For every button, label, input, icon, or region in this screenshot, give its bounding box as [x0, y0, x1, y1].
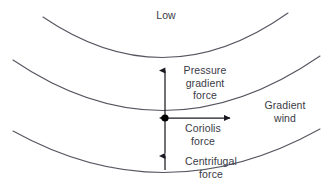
gradient-wind-force-balance-diagram: Low Pressure gradient force Coriolis for…: [0, 0, 332, 193]
air-parcel-point: [161, 114, 168, 121]
coriolis-force-label: Coriolis force: [170, 122, 236, 147]
pressure-gradient-force-line-3: force: [168, 89, 242, 102]
pressure-gradient-force-line-1: Pressure: [168, 64, 242, 77]
isobar-bottom-curve: [13, 129, 320, 173]
coriolis-force-line-2: force: [170, 135, 236, 148]
coriolis-force-line-1: Coriolis: [170, 122, 236, 135]
low-pressure-label: Low: [0, 9, 332, 22]
diagram-canvas: [0, 0, 332, 193]
isobar-group: [13, 13, 320, 173]
pressure-gradient-force-label: Pressure gradient force: [168, 64, 242, 102]
centrifugal-force-label: Centrifugal force: [172, 155, 250, 180]
gradient-wind-line-2: wind: [248, 112, 322, 125]
gradient-wind-label: Gradient wind: [248, 99, 322, 124]
gradient-wind-line-1: Gradient: [248, 99, 322, 112]
centrifugal-force-line-1: Centrifugal: [172, 155, 250, 168]
pressure-gradient-force-line-2: gradient: [168, 77, 242, 90]
low-pressure-text: Low: [156, 9, 176, 21]
centrifugal-force-line-2: force: [172, 168, 250, 181]
